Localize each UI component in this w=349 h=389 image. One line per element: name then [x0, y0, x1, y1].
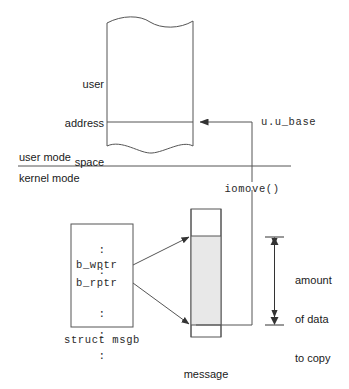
kernel-mode-label: kernel mode [19, 172, 80, 185]
u-u-base-label: u.u_base [261, 116, 316, 129]
msgb-upper-dot-0: : [82, 247, 122, 254]
amount-of-data-line-1: of data [295, 313, 349, 326]
user-address-space-line-1: address [30, 117, 104, 130]
iomove-label: iomove() [212, 183, 292, 196]
b-wptr-arrow [133, 237, 189, 265]
measure-arrow-up-head [271, 237, 279, 245]
msgb-lower-dot-2: : [82, 353, 122, 360]
amount-of-data-line-2: to copy [295, 352, 349, 365]
message-buffer-caption: message buffer [166, 342, 246, 389]
user-address-space-line-0: user [30, 78, 104, 91]
amount-of-data-line-0: amount [295, 274, 349, 287]
struct-msgb-caption: struct msgb [52, 334, 152, 347]
user-space-top-wave [107, 17, 193, 27]
b-rptr-arrow [133, 283, 189, 324]
b-rptr-label: b_rptr [76, 277, 117, 290]
message-buffer-box [191, 209, 221, 337]
b-wptr-label: b_wptr [76, 259, 117, 272]
measure-arrow-down-head [271, 317, 279, 325]
message-buffer-caption-line-0: message [166, 368, 246, 381]
user-address-space-box [107, 17, 193, 153]
iomove-diagram: user address space u.u_base user mode ke… [0, 0, 349, 389]
user-mode-label: user mode [19, 151, 71, 164]
message-buffer-shaded-region [191, 236, 221, 325]
amount-of-data-label: amount of data to copy to user space [295, 248, 349, 389]
amount-measure-arrow [265, 237, 284, 325]
msgb-lower-dot-0: : [82, 311, 122, 318]
user-space-bottom-wave [107, 144, 193, 153]
